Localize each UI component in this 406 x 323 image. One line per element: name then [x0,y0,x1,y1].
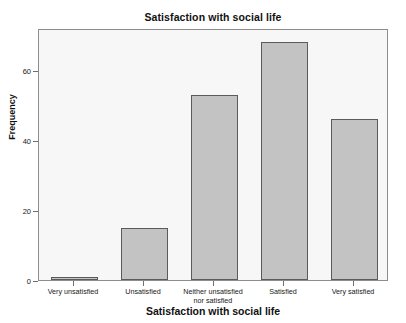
x-tick-label-line: Very satisfied [318,288,388,297]
y-tick-mark [33,281,38,282]
x-tick-label-line: Unsatisfied [108,288,178,297]
x-tick-label: Satisfied [248,288,318,297]
x-tick-label-line: nor satisfied [178,297,248,306]
x-tick-label-line: Satisfied [248,288,318,297]
plot-area [39,30,387,280]
x-tick-label: Very unsatisfied [38,288,108,297]
bar [261,42,308,280]
y-tick-label: 40 [5,137,31,146]
x-tick-mark [283,281,284,286]
y-tick-label: 20 [5,207,31,216]
x-tick-label: Unsatisfied [108,288,178,297]
bar [331,119,378,280]
y-tick-label: 0 [5,277,31,286]
x-tick-mark [353,281,354,286]
chart-title: Satisfaction with social life [38,11,388,23]
bar [121,228,168,281]
x-tick-mark [213,281,214,286]
x-tick-mark [73,281,74,286]
x-tick-mark [143,281,144,286]
y-tick-label: 60 [5,67,31,76]
bar [191,95,238,281]
x-tick-label: Very satisfied [318,288,388,297]
x-axis-title: Satisfaction with social life [38,305,388,317]
x-tick-label-line: Very unsatisfied [38,288,108,297]
bar-chart-figure: Satisfaction with social life Frequency … [0,0,406,323]
plot-frame [38,29,388,281]
x-tick-label: Neither unsatisfiednor satisfied [178,288,248,305]
bar [51,277,98,281]
